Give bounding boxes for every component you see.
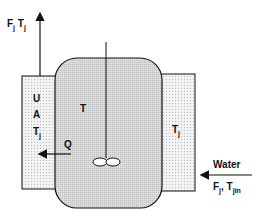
jacket-left-label-u: U [33,93,40,104]
impeller-blade-left [93,158,107,166]
heat-flow-label: Q [64,139,72,150]
reactor-vessel [55,58,162,208]
inlet-label: Water [213,159,241,170]
jacket-left-label-a: A [33,109,40,120]
vessel-temperature-label: T [80,103,86,114]
reactor-diagram: Fj Tj U A Tj T Q Tj Water Fj, Tjin [0,0,261,217]
inlet-sub-label: Fj, Tjin [213,181,241,195]
outlet-label: Fj Tj [7,18,26,32]
impeller-blade-right [106,158,120,166]
